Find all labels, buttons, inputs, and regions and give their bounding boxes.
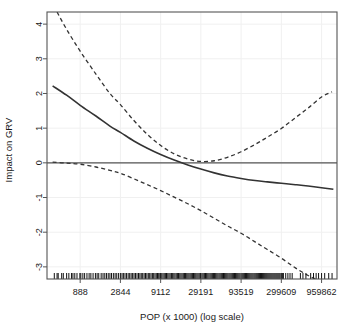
y-tick-label: 3: [34, 56, 44, 61]
y-axis-title: Impact on GRV: [3, 117, 14, 182]
x-axis-title: POP (x 1000) (log scale): [140, 311, 244, 322]
x-tick-label: 959862: [307, 287, 337, 297]
x-tick-label: 2844: [110, 287, 130, 297]
x-tick-label: 93519: [229, 287, 254, 297]
y-tick-label: -2: [34, 228, 44, 236]
y-tick-label: 4: [34, 22, 44, 27]
y-tick-label: 0: [34, 160, 44, 165]
y-tick-label: -1: [34, 194, 44, 202]
chart-container: 888284491122919193519299609959862 43210-…: [0, 0, 359, 328]
x-tick-label: 9112: [151, 287, 170, 297]
y-tick-label: -3: [34, 263, 44, 271]
x-tick-label: 299609: [266, 287, 296, 297]
y-tick-label: 2: [34, 91, 44, 96]
x-tick-label: 29191: [188, 287, 213, 297]
y-tick-label: 1: [34, 126, 44, 131]
partial-effect-plot: 888284491122919193519299609959862 43210-…: [0, 0, 359, 328]
x-tick-label: 888: [73, 287, 88, 297]
